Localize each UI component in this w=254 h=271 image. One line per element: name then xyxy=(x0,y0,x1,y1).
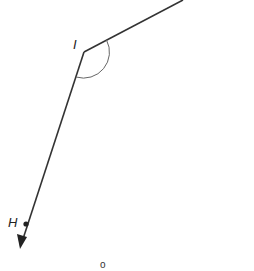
point-h-label: H xyxy=(8,215,18,230)
upper-ray xyxy=(84,0,183,52)
vertex-label: I xyxy=(73,37,77,52)
point-h xyxy=(23,221,28,226)
lower-ray xyxy=(22,52,84,242)
arrowhead-icon xyxy=(17,234,27,249)
angle-diagram: I H o xyxy=(0,0,254,271)
extra-point-label: o xyxy=(100,259,106,270)
